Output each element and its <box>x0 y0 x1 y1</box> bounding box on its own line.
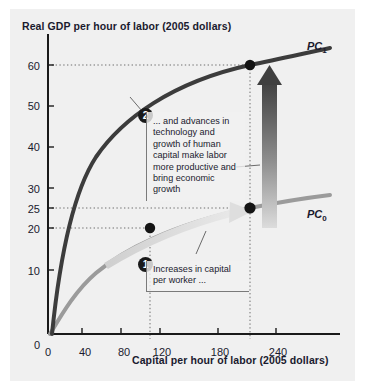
figure-panel: Real GDP per hour of labor (2005 dollars… <box>10 9 355 381</box>
marker-c <box>245 60 255 70</box>
plot-area: Real GDP per hour of labor (2005 dollars… <box>10 9 355 381</box>
pc1-base: PC <box>307 40 322 52</box>
pc0-subscript: 0 <box>322 214 326 223</box>
annotation-1-text: Increases in capital per worker ... <box>146 261 249 292</box>
annotation-2-text: ... and advances in technology and growt… <box>146 112 245 201</box>
curve-label-pc0: PC0 <box>307 208 327 223</box>
marker-b <box>244 202 255 213</box>
along-curve-arrow <box>106 202 253 266</box>
pc0-base: PC <box>307 208 322 220</box>
curve-label-pc1: PC1 <box>307 40 327 55</box>
marker-a <box>145 223 155 233</box>
pc1-subscript: 1 <box>322 46 326 55</box>
